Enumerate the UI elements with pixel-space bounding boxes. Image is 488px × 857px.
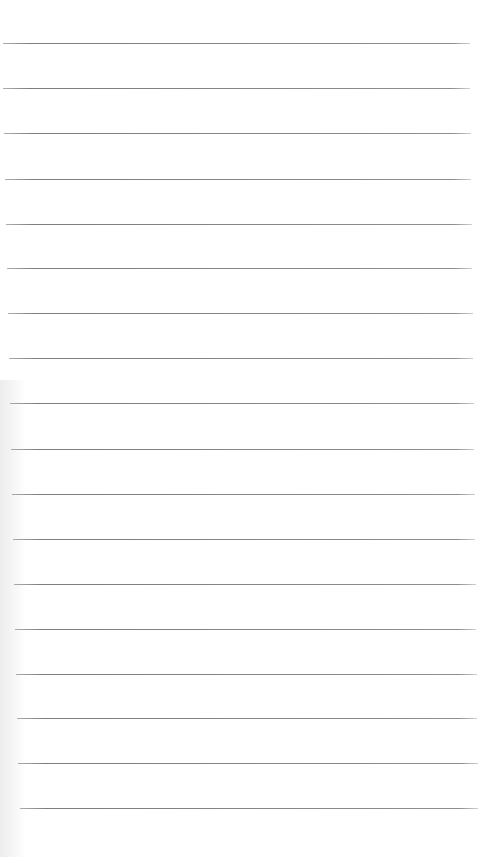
ruled-line [14, 584, 476, 585]
ruled-line [3, 43, 470, 44]
paper-edge-shadow [0, 380, 26, 857]
ruled-line [8, 313, 473, 314]
ruled-line [7, 268, 472, 269]
ruled-line [4, 133, 471, 134]
ruled-line [9, 358, 473, 359]
ruled-line [5, 179, 471, 180]
ruled-line [16, 674, 477, 675]
ruled-line [17, 718, 477, 719]
ruled-line [12, 494, 475, 495]
ruled-line [15, 629, 476, 630]
ruled-line [20, 808, 478, 809]
ruled-line [10, 403, 474, 404]
ruled-line [6, 224, 472, 225]
lined-paper-page [0, 0, 488, 857]
ruled-line [11, 449, 474, 450]
ruled-line [18, 763, 478, 764]
ruled-line [3, 88, 470, 89]
ruled-line [13, 539, 475, 540]
